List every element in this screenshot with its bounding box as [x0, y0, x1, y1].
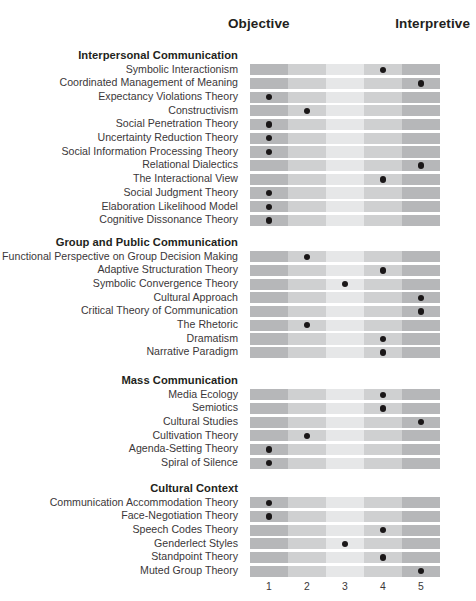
scale-cell-5: [402, 552, 440, 563]
scale-cell-2: [288, 160, 326, 171]
scale-stripe: [250, 458, 440, 469]
scale-cell-3: [326, 444, 364, 455]
theory-label: Constructivism: [168, 104, 238, 118]
theory-label: Uncertainty Reduction Theory: [97, 131, 238, 145]
theory-row: Semiotics: [0, 402, 476, 416]
scale-cell-3: [326, 251, 364, 262]
scale-cell-2: [288, 403, 326, 414]
scale-stripe: [250, 333, 440, 344]
scale-cell-4: [364, 201, 402, 212]
scale-tick-2: 2: [288, 581, 326, 592]
theory-marker-dot: [266, 204, 272, 210]
scale-cell-3: [326, 119, 364, 130]
scale-cell-1: [250, 566, 288, 577]
scale-stripe: [250, 320, 440, 331]
theory-label: Elaboration Likelihood Model: [101, 200, 238, 214]
scale-cell-5: [402, 403, 440, 414]
theory-marker-dot: [266, 446, 272, 452]
scale-cell-1: [250, 160, 288, 171]
scale-cell-3: [326, 92, 364, 103]
scale-cell-2: [288, 215, 326, 226]
scale-cell-2: [288, 417, 326, 428]
scale-cell-2: [288, 525, 326, 536]
scale-stripe: [250, 511, 440, 522]
theory-row: Dramatism: [0, 333, 476, 347]
scale-stripe: [250, 215, 440, 226]
theory-label: Expectancy Violations Theory: [98, 90, 238, 104]
scale-cell-3: [326, 497, 364, 508]
scale-cell-4: [364, 566, 402, 577]
scale-cell-3: [326, 292, 364, 303]
theory-label: Speech Codes Theory: [132, 523, 238, 537]
theory-marker-dot: [266, 500, 272, 506]
theory-row: Media Ecology: [0, 389, 476, 403]
scale-cell-3: [326, 187, 364, 198]
theory-label: Adaptive Structuration Theory: [97, 263, 238, 277]
scale-cell-1: [250, 279, 288, 290]
theory-label: Semiotics: [192, 401, 238, 415]
theory-marker-dot: [304, 254, 310, 260]
scale-cell-3: [326, 320, 364, 331]
theory-label: Symbolic Convergence Theory: [93, 277, 238, 291]
theory-label: Cognitive Dissonance Theory: [99, 213, 238, 227]
group-title: Mass Communication: [121, 374, 238, 386]
theory-row: The Rhetoric: [0, 319, 476, 333]
theory-row: Speech Codes Theory: [0, 524, 476, 538]
scale-cell-1: [250, 306, 288, 317]
scale-stripe: [250, 306, 440, 317]
scale-tick-5: 5: [402, 581, 440, 592]
theory-row: Communication Accommodation Theory: [0, 497, 476, 511]
scale-cell-1: [250, 389, 288, 400]
scale-cell-1: [250, 265, 288, 276]
scale-cell-5: [402, 333, 440, 344]
theory-label: Media Ecology: [168, 388, 238, 402]
scale-cell-3: [326, 417, 364, 428]
group-title: Group and Public Communication: [56, 236, 238, 248]
theory-label: Social Penetration Theory: [116, 117, 238, 131]
scale-cell-3: [326, 552, 364, 563]
scale-cell-2: [288, 347, 326, 358]
scale-stripe: [250, 174, 440, 185]
theory-marker-dot: [266, 513, 272, 519]
scale-cell-2: [288, 552, 326, 563]
scale-cell-3: [326, 174, 364, 185]
scale-cell-1: [250, 552, 288, 563]
theory-row: Adaptive Structuration Theory: [0, 264, 476, 278]
theory-label: The Interactional View: [133, 172, 238, 186]
scale-cell-4: [364, 279, 402, 290]
scale-stripe: [250, 566, 440, 577]
theory-row: The Interactional View: [0, 173, 476, 187]
scale-cell-4: [364, 497, 402, 508]
theory-marker-dot: [418, 80, 424, 86]
scale-cell-5: [402, 215, 440, 226]
scale-cell-5: [402, 444, 440, 455]
scale-cell-2: [288, 511, 326, 522]
scale-cell-4: [364, 92, 402, 103]
scale-cell-5: [402, 64, 440, 75]
scale-stripe: [250, 64, 440, 75]
scale-cell-5: [402, 430, 440, 441]
theory-label: Agenda-Setting Theory: [129, 442, 238, 456]
theory-marker-dot: [380, 176, 386, 182]
scale-cell-2: [288, 538, 326, 549]
scale-cell-3: [326, 64, 364, 75]
scale-cell-3: [326, 403, 364, 414]
theory-label: Functional Perspective on Group Decision…: [2, 250, 238, 264]
scale-cell-2: [288, 333, 326, 344]
theory-label: Social Judgment Theory: [124, 186, 238, 200]
scale-cell-4: [364, 538, 402, 549]
scale-stripe: [250, 444, 440, 455]
scale-cell-2: [288, 497, 326, 508]
theory-marker-dot: [380, 349, 386, 355]
theory-label: Dramatism: [187, 332, 238, 346]
theory-continuum-chart: Interpersonal CommunicationSymbolic Inte…: [0, 0, 476, 601]
scale-stripe: [250, 160, 440, 171]
theory-label: Critical Theory of Communication: [81, 304, 238, 318]
scale-cell-3: [326, 201, 364, 212]
scale-cell-5: [402, 497, 440, 508]
theory-row: Constructivism: [0, 105, 476, 119]
scale-cell-2: [288, 64, 326, 75]
scale-cell-5: [402, 187, 440, 198]
scale-stripe: [250, 92, 440, 103]
scale-cell-1: [250, 292, 288, 303]
